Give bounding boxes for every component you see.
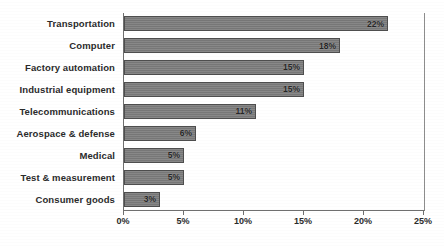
bar-value-label: 11%: [235, 107, 252, 116]
category-label: Test & measurement: [20, 173, 115, 183]
category-label: Computer: [69, 41, 115, 51]
bar-chart: Transportation Computer Factory automati…: [0, 0, 444, 246]
bar-value-label: 5%: [168, 151, 180, 160]
x-axis-tick: [123, 211, 124, 215]
bar-row: 18%: [124, 35, 424, 57]
x-axis-tick-label: 5%: [176, 217, 189, 226]
category-label: Medical: [79, 151, 115, 161]
x-axis-tick: [423, 211, 424, 215]
bar: 15%: [124, 82, 304, 97]
category-axis-row: Test & measurement: [0, 167, 119, 189]
category-axis-row: Factory automation: [0, 57, 119, 79]
bar-row: 15%: [124, 79, 424, 101]
bar-value-label: 6%: [180, 129, 192, 138]
category-axis-row: Telecommunications: [0, 101, 119, 123]
bar-row: 22%: [124, 13, 424, 35]
bar-row: 3%: [124, 188, 424, 210]
category-label: Industrial equipment: [20, 85, 115, 95]
bar: 18%: [124, 38, 340, 53]
bar-row: 15%: [124, 57, 424, 79]
category-axis-row: Aerospace & defense: [0, 123, 119, 145]
x-axis-tick-label: 20%: [354, 217, 372, 226]
bar: 22%: [124, 16, 388, 31]
bar-value-label: 3%: [144, 195, 156, 204]
bar-value-label: 15%: [283, 63, 300, 72]
category-label: Consumer goods: [35, 195, 115, 205]
bar: 11%: [124, 104, 256, 119]
plot-area: 22% 18% 15% 15% 11%: [123, 13, 425, 211]
bar-row: 6%: [124, 122, 424, 144]
x-axis-tick-label: 25%: [414, 217, 432, 226]
category-axis-row: Computer: [0, 35, 119, 57]
bar: 5%: [124, 170, 184, 185]
x-axis-tick: [243, 211, 244, 215]
x-axis-tick-label: 10%: [234, 217, 252, 226]
category-label: Telecommunications: [19, 107, 115, 117]
bar: 15%: [124, 60, 304, 75]
bar-row: 5%: [124, 166, 424, 188]
x-axis: 0%5%10%15%20%25%: [123, 211, 425, 241]
category-label: Aerospace & defense: [16, 129, 115, 139]
bar-value-label: 5%: [168, 173, 180, 182]
category-label: Transportation: [47, 19, 115, 29]
bar-value-label: 15%: [283, 85, 300, 94]
x-axis-tick: [303, 211, 304, 215]
bar-row: 11%: [124, 101, 424, 123]
category-axis-row: Transportation: [0, 13, 119, 35]
category-label: Factory automation: [25, 63, 115, 73]
category-axis-row: Industrial equipment: [0, 79, 119, 101]
category-axis-row: Consumer goods: [0, 189, 119, 211]
bar-row: 5%: [124, 144, 424, 166]
x-axis-tick: [363, 211, 364, 215]
bar: 3%: [124, 192, 160, 207]
category-axis: Transportation Computer Factory automati…: [0, 13, 119, 211]
x-axis-tick: [183, 211, 184, 215]
category-axis-row: Medical: [0, 145, 119, 167]
x-axis-tick-label: 15%: [294, 217, 312, 226]
bar-value-label: 18%: [319, 42, 336, 51]
bar: 5%: [124, 148, 184, 163]
bars-layer: 22% 18% 15% 15% 11%: [124, 13, 424, 210]
bar-value-label: 22%: [367, 20, 384, 29]
bar: 6%: [124, 126, 196, 141]
x-axis-tick-label: 0%: [116, 217, 129, 226]
